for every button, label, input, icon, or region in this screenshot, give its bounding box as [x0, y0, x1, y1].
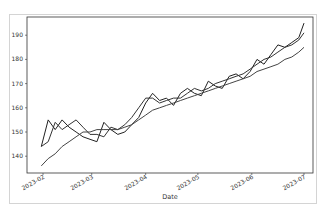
y-tick-label: 190	[12, 31, 24, 38]
x-tick-label: 2023-04	[123, 173, 148, 192]
y-tick-label: 160	[12, 104, 24, 111]
x-tick-label: 2023-06	[229, 173, 254, 192]
series-line-3	[41, 47, 304, 166]
x-tick-label: 2023-02	[20, 173, 45, 192]
y-tick-label: 150	[12, 128, 24, 135]
x-tick-label: 2023-03	[69, 173, 94, 192]
x-axis-label: Date	[162, 193, 178, 201]
series-line-2	[41, 33, 304, 147]
y-tick-label: 180	[12, 55, 24, 62]
x-tick-label: 2023-07	[281, 173, 306, 192]
x-tick-label: 2023-05	[175, 173, 200, 192]
y-axis: 140150160170180190	[12, 31, 27, 159]
y-tick-label: 140	[12, 152, 24, 159]
line-chart: 140150160170180190 2023-022023-032023-04…	[0, 0, 327, 211]
x-axis: 2023-022023-032023-042023-052023-062023-…	[20, 173, 306, 192]
series-line-1	[41, 23, 304, 146]
plot-area	[41, 23, 304, 166]
y-tick-label: 170	[12, 80, 24, 87]
axes-box	[27, 17, 313, 173]
